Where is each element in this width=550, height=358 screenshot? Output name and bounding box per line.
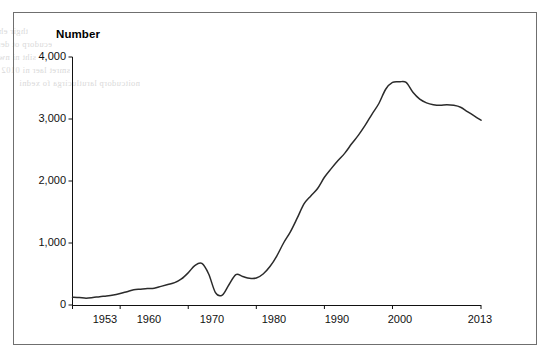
x-tick-label-1980: 1980 [252,313,296,325]
x-tick-label-2013: 2013 [458,313,502,325]
y-tick-label-4000: 4,000 [22,50,66,62]
y-tick-label-1000: 1,000 [22,236,66,248]
x-tick-label-1960: 1960 [127,313,171,325]
x-tick-label-1970: 1970 [190,313,234,325]
y-axis-title: Number [56,28,100,40]
x-tick-label-1953: 1953 [83,313,127,325]
x-tick-label-1990: 1990 [315,313,359,325]
x-tick-label-2000: 2000 [378,313,422,325]
y-tick-label-2000: 2,000 [22,174,66,186]
y-tick-label-0: 0 [22,298,66,310]
y-tick-label-3000: 3,000 [22,112,66,124]
chart-frame-border [13,12,537,345]
